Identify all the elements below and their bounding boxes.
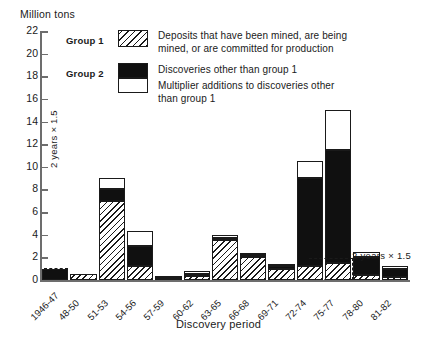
right-annotation-bracket: [309, 258, 353, 280]
bar-segment: [70, 274, 96, 280]
y-tick-label: 14: [2, 115, 38, 127]
legend-group1-tag: Group 1: [66, 35, 104, 46]
bar-stack: [99, 178, 125, 280]
bar-segment: [353, 275, 379, 280]
bar-segment: [155, 276, 181, 278]
legend-swatch-multiplier: [118, 78, 148, 93]
bar-stack: [127, 231, 153, 280]
bar-stack: [382, 266, 408, 280]
left-annotation-label: 2 years × 1.5: [48, 110, 59, 168]
bar-segment: [297, 161, 323, 178]
legend-swatch-discoveries: [118, 63, 148, 78]
bar-segment: [268, 264, 294, 266]
y-tick-label: 10: [2, 160, 38, 172]
bar-stack: [240, 253, 266, 280]
bar-segment: [212, 238, 238, 240]
bar-segment: [297, 178, 323, 266]
bar-segment: [268, 266, 294, 269]
bar-segment: [42, 269, 68, 280]
bar-stack: [42, 269, 68, 280]
bar-segment: [184, 271, 210, 274]
legend-entry-group1: Deposits that have been mined, are being…: [158, 30, 437, 55]
bar-segment: [127, 266, 153, 280]
bar-segment: [240, 253, 266, 255]
y-tick-label: 12: [2, 137, 38, 149]
bar-stack: [155, 277, 181, 280]
left-annotation-dash: [44, 268, 68, 269]
legend-group2-tag: Group 2: [66, 68, 104, 79]
bar-segment: [240, 257, 266, 280]
y-tick-label: 4: [2, 228, 38, 240]
y-tick-label: 20: [2, 47, 38, 59]
y-tick-label: 6: [2, 205, 38, 217]
bar-segment: [212, 235, 238, 238]
y-tick-label: 2: [2, 250, 38, 262]
bar-stack: [212, 235, 238, 280]
bar-segment: [184, 276, 210, 280]
bar-stack: [268, 264, 294, 280]
bar-segment: [382, 269, 408, 277]
y-tick-label: 0: [2, 273, 38, 285]
bar-segment: [325, 110, 351, 150]
legend-entry-discoveries: Discoveries other than group 1: [158, 64, 437, 77]
bar-segment: [127, 246, 153, 266]
x-axis-title: Discovery period: [0, 318, 437, 330]
legend-swatch-group1: [118, 30, 148, 47]
bar-segment: [212, 240, 238, 280]
legend-entry-multiplier: Multiplier additions to discoveries othe…: [158, 80, 437, 105]
bar-segment: [268, 269, 294, 280]
bar-stack: [184, 271, 210, 280]
chart-figure: Million tons 0246810121416182022 1946-47…: [0, 0, 437, 342]
bar-segment: [127, 231, 153, 246]
y-tick-label: 8: [2, 182, 38, 194]
bar-segment: [99, 189, 125, 200]
bar-segment: [99, 178, 125, 189]
y-tick-label: 18: [2, 69, 38, 81]
bar-segment: [382, 266, 408, 268]
y-tick-label: 16: [2, 92, 38, 104]
bar-segment: [240, 255, 266, 257]
right-annotation-label: 2 years × 1.5: [352, 250, 411, 261]
bar-stack: [70, 274, 96, 280]
y-axis-unit-label: Million tons: [20, 8, 75, 20]
bar-segment: [99, 201, 125, 280]
bar-segment: [325, 150, 351, 263]
bar-segment: [184, 274, 210, 276]
y-tick-label: 22: [2, 24, 38, 36]
bar-stack: [325, 110, 351, 280]
bar-segment: [382, 277, 408, 280]
